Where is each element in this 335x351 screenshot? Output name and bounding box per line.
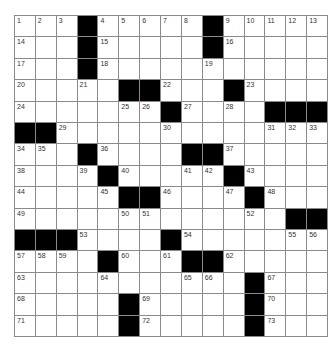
answer-cell[interactable]: 58 (36, 251, 57, 272)
answer-cell[interactable] (78, 316, 99, 337)
answer-cell[interactable]: 70 (265, 294, 286, 315)
answer-cell[interactable] (245, 230, 266, 251)
answer-cell[interactable]: 33 (307, 123, 328, 144)
answer-cell[interactable] (307, 59, 328, 80)
answer-cell[interactable]: 42 (203, 166, 224, 187)
answer-cell[interactable]: 16 (224, 37, 245, 58)
answer-cell[interactable] (161, 144, 182, 165)
answer-cell[interactable] (265, 37, 286, 58)
answer-cell[interactable] (203, 230, 224, 251)
answer-cell[interactable]: 59 (57, 251, 78, 272)
answer-cell[interactable] (119, 37, 140, 58)
answer-cell[interactable] (286, 294, 307, 315)
answer-cell[interactable] (98, 316, 119, 337)
answer-cell[interactable] (36, 187, 57, 208)
answer-cell[interactable] (203, 80, 224, 101)
answer-cell[interactable] (286, 59, 307, 80)
answer-cell[interactable]: 34 (15, 144, 36, 165)
answer-cell[interactable] (78, 102, 99, 123)
answer-cell[interactable]: 7 (161, 16, 182, 37)
answer-cell[interactable] (161, 59, 182, 80)
answer-cell[interactable] (307, 273, 328, 294)
answer-cell[interactable] (182, 123, 203, 144)
answer-cell[interactable]: 49 (15, 209, 36, 230)
answer-cell[interactable]: 11 (265, 16, 286, 37)
answer-cell[interactable] (57, 316, 78, 337)
answer-cell[interactable] (224, 209, 245, 230)
answer-cell[interactable]: 62 (224, 251, 245, 272)
answer-cell[interactable]: 61 (161, 251, 182, 272)
answer-cell[interactable]: 47 (224, 187, 245, 208)
answer-cell[interactable] (57, 294, 78, 315)
answer-cell[interactable] (57, 273, 78, 294)
answer-cell[interactable]: 57 (15, 251, 36, 272)
answer-cell[interactable]: 1 (15, 16, 36, 37)
answer-cell[interactable] (161, 37, 182, 58)
answer-cell[interactable] (286, 37, 307, 58)
answer-cell[interactable]: 56 (307, 230, 328, 251)
answer-cell[interactable]: 51 (140, 209, 161, 230)
answer-cell[interactable] (140, 123, 161, 144)
answer-cell[interactable]: 35 (36, 144, 57, 165)
answer-cell[interactable] (307, 37, 328, 58)
answer-cell[interactable] (307, 316, 328, 337)
answer-cell[interactable] (307, 187, 328, 208)
answer-cell[interactable] (36, 59, 57, 80)
answer-cell[interactable] (119, 230, 140, 251)
answer-cell[interactable] (57, 59, 78, 80)
answer-cell[interactable] (307, 251, 328, 272)
answer-cell[interactable]: 66 (203, 273, 224, 294)
answer-cell[interactable] (182, 80, 203, 101)
answer-cell[interactable]: 44 (15, 187, 36, 208)
answer-cell[interactable]: 72 (140, 316, 161, 337)
answer-cell[interactable] (161, 166, 182, 187)
answer-cell[interactable] (119, 59, 140, 80)
answer-cell[interactable]: 24 (15, 102, 36, 123)
answer-cell[interactable] (98, 294, 119, 315)
answer-cell[interactable]: 55 (286, 230, 307, 251)
answer-cell[interactable] (119, 273, 140, 294)
answer-cell[interactable]: 68 (15, 294, 36, 315)
answer-cell[interactable] (161, 209, 182, 230)
answer-cell[interactable] (78, 123, 99, 144)
answer-cell[interactable] (265, 166, 286, 187)
answer-cell[interactable] (36, 80, 57, 101)
answer-cell[interactable]: 64 (98, 273, 119, 294)
answer-cell[interactable] (57, 144, 78, 165)
answer-cell[interactable] (119, 144, 140, 165)
answer-cell[interactable] (119, 123, 140, 144)
answer-cell[interactable] (286, 316, 307, 337)
answer-cell[interactable] (286, 273, 307, 294)
answer-cell[interactable] (182, 187, 203, 208)
answer-cell[interactable] (245, 123, 266, 144)
answer-cell[interactable] (182, 209, 203, 230)
answer-cell[interactable] (203, 209, 224, 230)
answer-cell[interactable]: 69 (140, 294, 161, 315)
answer-cell[interactable] (245, 144, 266, 165)
answer-cell[interactable] (98, 123, 119, 144)
answer-cell[interactable]: 6 (140, 16, 161, 37)
answer-cell[interactable] (57, 209, 78, 230)
answer-cell[interactable]: 52 (245, 209, 266, 230)
answer-cell[interactable] (307, 80, 328, 101)
answer-cell[interactable]: 29 (57, 123, 78, 144)
answer-cell[interactable] (245, 102, 266, 123)
answer-cell[interactable]: 71 (15, 316, 36, 337)
answer-cell[interactable]: 46 (161, 187, 182, 208)
answer-cell[interactable]: 31 (265, 123, 286, 144)
answer-cell[interactable]: 32 (286, 123, 307, 144)
answer-cell[interactable] (203, 187, 224, 208)
answer-cell[interactable] (265, 230, 286, 251)
answer-cell[interactable] (224, 273, 245, 294)
answer-cell[interactable] (265, 59, 286, 80)
answer-cell[interactable] (57, 37, 78, 58)
answer-cell[interactable] (224, 316, 245, 337)
answer-cell[interactable]: 54 (182, 230, 203, 251)
answer-cell[interactable]: 37 (224, 144, 245, 165)
answer-cell[interactable] (78, 251, 99, 272)
answer-cell[interactable] (265, 144, 286, 165)
answer-cell[interactable] (286, 251, 307, 272)
answer-cell[interactable] (140, 230, 161, 251)
answer-cell[interactable] (203, 102, 224, 123)
answer-cell[interactable]: 39 (78, 166, 99, 187)
